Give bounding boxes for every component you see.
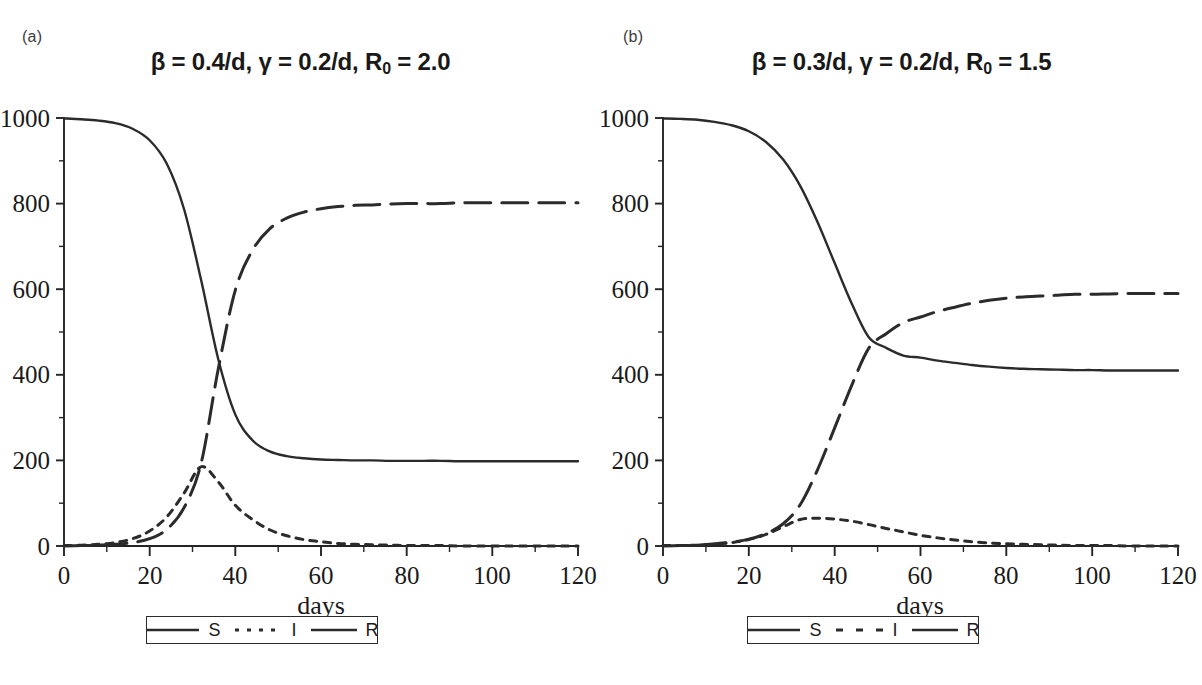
- panel-b-ytick-400: 400: [612, 361, 650, 388]
- panel-a-plot: 1000 800 600 400 200 0: [0, 0, 601, 685]
- panel-b-curve-R: [663, 293, 1178, 546]
- panel-a-ytick-200: 200: [13, 447, 51, 474]
- panel-a: (a) β = 0.4/d, γ = 0.2/d, R0 = 2.0: [0, 0, 601, 685]
- panel-b-legend-label-S: S: [809, 621, 821, 639]
- panel-b-legend-label-I: I: [893, 621, 898, 639]
- panel-a-ytick-1000: 1000: [0, 105, 50, 132]
- panel-b-ytick-800: 800: [612, 190, 650, 217]
- panel-b-ytick-200: 200: [612, 447, 650, 474]
- panel-a-curve-R: [64, 203, 578, 546]
- panel-a-xtick-120: 120: [559, 562, 597, 589]
- panel-b-xtick-100: 100: [1073, 562, 1111, 589]
- panel-b-xtick-120: 120: [1159, 562, 1197, 589]
- panel-b-xtick-0: 0: [657, 562, 670, 589]
- panel-b-xtick-80: 80: [994, 562, 1019, 589]
- panel-a-xtick-0: 0: [58, 562, 71, 589]
- panel-b-legend-label-R: R: [967, 621, 980, 639]
- panel-b-legend: S I R: [747, 616, 979, 644]
- panel-a-curve-S: [64, 118, 578, 461]
- legend-line-dashed-icon: [910, 625, 960, 635]
- legend-line-solid-icon: [746, 625, 802, 635]
- panel-b-ytick-1000: 1000: [601, 105, 649, 132]
- panel-a-xtick-100: 100: [473, 562, 511, 589]
- panel-a-ytick-800: 800: [13, 190, 51, 217]
- panel-a-xtick-80: 80: [395, 562, 420, 589]
- panel-a-legend-label-S: S: [208, 621, 220, 639]
- panel-a-legend-entry-R: R: [303, 621, 385, 639]
- legend-line-solid-icon: [145, 625, 201, 635]
- panel-a-ytick-600: 600: [13, 276, 51, 303]
- panel-a-legend-entry-I: I: [227, 621, 303, 639]
- legend-line-dashed-icon: [309, 625, 359, 635]
- figure-container: (a) β = 0.4/d, γ = 0.2/d, R0 = 2.0: [0, 0, 1202, 685]
- panel-b-ytick-600: 600: [612, 276, 650, 303]
- panel-a-legend-entry-S: S: [139, 621, 226, 639]
- panel-b-curve-I: [663, 518, 1178, 546]
- panel-b-x-major-ticks: [663, 546, 1178, 556]
- panel-a-ytick-400: 400: [13, 361, 51, 388]
- panel-b-ytick-0: 0: [637, 533, 650, 560]
- panel-a-curve-I: [64, 467, 578, 546]
- panel-b-xtick-60: 60: [908, 562, 933, 589]
- legend-line-dashed-icon: [834, 625, 886, 635]
- panel-b-xtick-40: 40: [823, 562, 848, 589]
- panel-b-legend-entry-S: S: [740, 621, 827, 639]
- panel-b-plot: 1000 800 600 400 200 0: [601, 0, 1202, 685]
- panel-a-legend-label-I: I: [292, 621, 297, 639]
- panel-b: (b) β = 0.3/d, γ = 0.2/d, R0 = 1.5 1000: [601, 0, 1202, 685]
- panel-a-xtick-40: 40: [223, 562, 248, 589]
- panel-b-legend-entry-I: I: [828, 621, 904, 639]
- panel-a-ytick-0: 0: [38, 533, 51, 560]
- legend-line-dotted-icon: [233, 625, 285, 635]
- panel-a-x-major-ticks: [64, 546, 578, 556]
- panel-b-xtick-20: 20: [737, 562, 762, 589]
- panel-a-xtick-60: 60: [309, 562, 334, 589]
- panel-a-legend: S I R: [146, 616, 378, 644]
- panel-b-curve-S: [663, 118, 1178, 370]
- panel-b-legend-entry-R: R: [904, 621, 986, 639]
- panel-a-legend-label-R: R: [366, 621, 379, 639]
- panel-a-xtick-20: 20: [138, 562, 163, 589]
